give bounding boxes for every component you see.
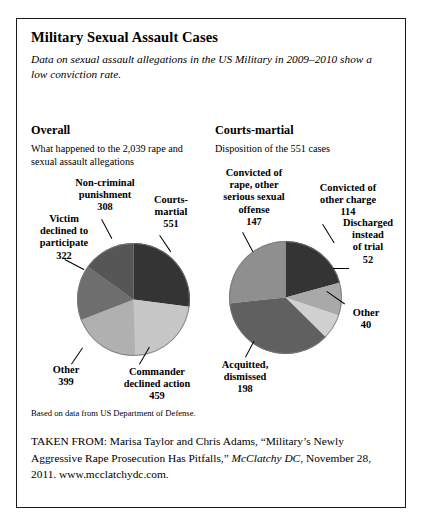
label-discharged-instead-of-trial: Discharged instead of trial 52 [331,217,405,266]
label-other-left: Other 399 [39,364,93,388]
figure-container: Military Sexual Assault Cases Data on se… [16,18,406,508]
panel-subheading-overall: What happened to the 2,039 rape and sexu… [31,142,191,168]
slice-convicted-rape [229,241,286,303]
credit-publication: McClatchy DC [232,452,301,464]
label-other-right: Other 40 [339,307,393,331]
figure-title: Military Sexual Assault Cases [31,29,218,46]
label-noncriminal-punishment: Non-criminal punishment 308 [59,177,151,214]
panel-heading-courts-martial: Courts-martial [215,123,294,138]
label-convicted-rape: Convicted of rape, other serious sexual … [207,167,301,228]
label-acquitted-dismissed: Acquitted, dismissed 198 [199,359,291,396]
pie-disposition-svg [229,241,342,354]
label-convicted-other-charge: Convicted of other charge 114 [305,182,391,219]
panel-heading-overall: Overall [31,123,70,138]
pie-chart-disposition [229,241,342,354]
slice-courts-martial [134,243,190,307]
label-victim-declined: Victim declined to participate 322 [23,213,105,262]
slice-commander-declined [134,300,190,356]
taken-from-credit: TAKEN FROM: Marisa Taylor and Chris Adam… [31,433,391,483]
label-courts-martial: Courts- martial 551 [141,194,201,231]
figure-subtitle: Data on sexual assault allegations in th… [31,52,383,82]
footnote-source: Based on data from US Department of Defe… [31,407,381,419]
label-commander-declined: Commander declined action 459 [105,366,209,403]
leader-line-discharged [333,268,349,269]
panel-subheading-courts-martial: Disposition of the 551 cases [215,142,390,155]
